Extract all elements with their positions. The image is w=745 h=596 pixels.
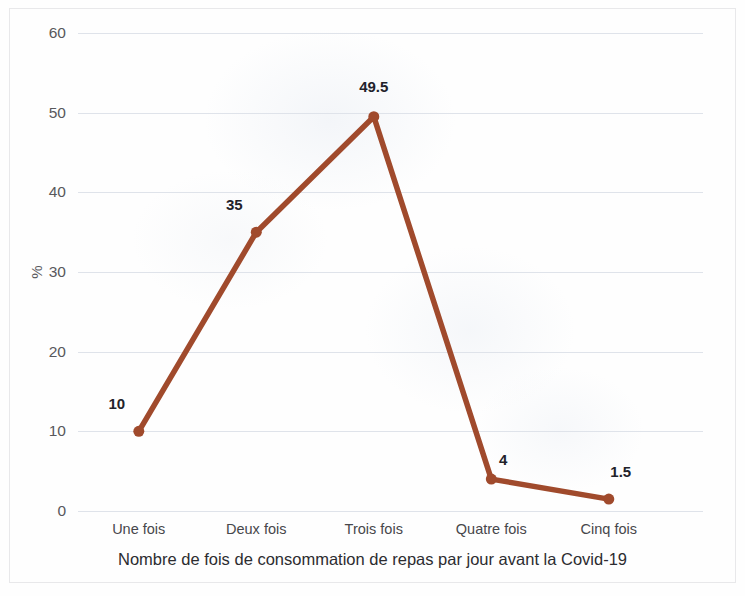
series-markers-group (133, 111, 614, 504)
data-point-marker (486, 474, 497, 485)
data-point-value-label: 4 (499, 451, 507, 468)
data-point-marker (133, 426, 144, 437)
line-chart-figure: 0102030405060 % Une foisDeux foisTrois f… (0, 0, 745, 596)
data-point-value-label: 1.5 (610, 463, 631, 480)
data-point-marker (251, 227, 262, 238)
data-point-marker (603, 494, 614, 505)
data-point-value-label: 49.5 (359, 77, 388, 94)
data-point-value-label: 35 (226, 196, 243, 213)
data-point-marker (368, 111, 379, 122)
data-point-value-label: 10 (108, 395, 125, 412)
x-axis-title: Nombre de fois de consommation de repas … (0, 550, 745, 569)
series-polyline (139, 117, 609, 499)
